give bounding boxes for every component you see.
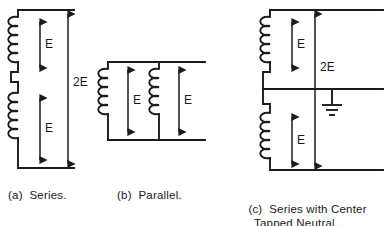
series-lower-e-label: E [45, 121, 53, 135]
caption-layer: (a) Series. (b) Parallel. (c) Series wit… [0, 186, 390, 226]
ct-top-terminal-lead [270, 10, 383, 16]
ct-tap-to-lower [263, 89, 270, 112]
series-upper-coil [8, 17, 18, 62]
ct-bottom-terminal-lead [270, 158, 383, 170]
parallel-left-e-label: E [133, 93, 141, 107]
series-upper-e-label: E [45, 37, 53, 51]
diagram-series: E E 2E [8, 10, 87, 168]
ct-total-2e-label: 2E [320, 60, 335, 74]
transformer-winding-figure: E E 2E E E [0, 0, 390, 226]
caption-c-line1: (c) Series with Center [248, 203, 366, 215]
caption-parallel: (b) Parallel. [117, 188, 182, 202]
parallel-right-coil [149, 69, 159, 114]
caption-series: (a) Series. [8, 188, 67, 202]
parallel-left-coil [98, 69, 108, 114]
ct-upper-to-tap [263, 62, 270, 89]
diagram-parallel: E E [98, 62, 205, 140]
ct-upper-e-label: E [297, 37, 305, 51]
series-total-2e-label: 2E [73, 75, 88, 89]
diagram-series-center-tapped: E E 2E [260, 10, 383, 170]
ct-upper-coil [260, 17, 270, 62]
series-interconnect [11, 62, 18, 92]
parallel-right-e-label: E [184, 93, 192, 107]
caption-c-line2: Tapped Neutral. [254, 216, 367, 226]
ct-lower-coil [260, 113, 270, 158]
series-lower-coil [8, 93, 18, 138]
series-bottom-terminal-lead [18, 138, 74, 168]
series-top-terminal-lead [18, 10, 74, 16]
ct-lower-e-label: E [297, 133, 305, 147]
caption-series-center-tapped: (c) Series with CenterTapped Neutral. [228, 188, 367, 226]
